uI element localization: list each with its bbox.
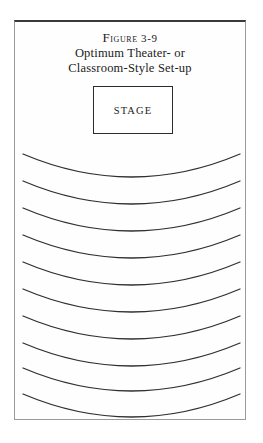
seating-row-arc — [23, 394, 240, 417]
seating-arcs-group — [15, 22, 247, 422]
seating-row-arc — [23, 262, 240, 285]
seating-row-arc — [23, 343, 240, 366]
seating-row-arc — [23, 289, 240, 312]
seating-row-arc — [23, 368, 240, 391]
seating-row-arc — [23, 208, 240, 231]
seating-row-arc — [23, 154, 240, 177]
seating-row-arc — [23, 181, 240, 204]
seating-row-arc — [23, 316, 240, 339]
seating-row-arc — [23, 235, 240, 258]
figure-frame: Figure 3-9 Optimum Theater- or Classroom… — [14, 20, 246, 420]
